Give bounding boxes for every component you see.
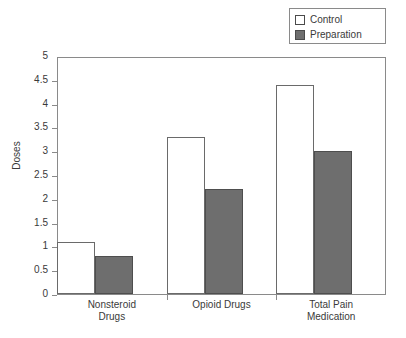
y-axis-tick-label: 0.5 (34, 264, 48, 276)
legend-item-preparation: Preparation (295, 27, 381, 42)
x-axis-category-label: Total Pain Medication (276, 299, 386, 323)
bar-control-group-3 (276, 85, 314, 294)
bar-preparation-group-2 (205, 189, 243, 294)
y-axis-tick-label: 4.5 (34, 74, 48, 86)
y-axis-tick-label: 2.5 (34, 169, 48, 181)
bar-chart: Control Preparation Doses 00.511.522.533… (0, 0, 406, 338)
y-axis-tick-label: 2 (42, 193, 48, 205)
plot-area (57, 57, 386, 295)
legend-item-control: Control (295, 12, 381, 27)
y-axis-tick-label: 3.5 (34, 121, 48, 133)
x-axis-category-label: Opioid Drugs (167, 299, 277, 311)
y-axis-tick-label: 0 (42, 288, 48, 300)
y-axis-tick-label: 1 (42, 240, 48, 252)
chart-legend: Control Preparation (289, 8, 386, 44)
legend-label-control: Control (310, 14, 342, 25)
bar-preparation-group-3 (314, 151, 352, 294)
legend-label-preparation: Preparation (310, 29, 362, 40)
bar-control-group-2 (167, 137, 205, 294)
legend-swatch-preparation-icon (295, 30, 305, 40)
y-axis-tick-label: 5 (42, 50, 48, 62)
y-axis-tick-label: 3 (42, 145, 48, 157)
y-axis-tick-label: 1.5 (34, 217, 48, 229)
bar-control-group-1 (57, 242, 95, 294)
x-axis-category-label: Nonsteroid Drugs (57, 299, 167, 323)
bar-preparation-group-1 (95, 256, 133, 294)
y-axis-title: Doses (11, 116, 22, 196)
y-axis-tick-mark (52, 295, 57, 296)
y-axis-tick-label: 4 (42, 98, 48, 110)
legend-swatch-control-icon (295, 15, 305, 25)
